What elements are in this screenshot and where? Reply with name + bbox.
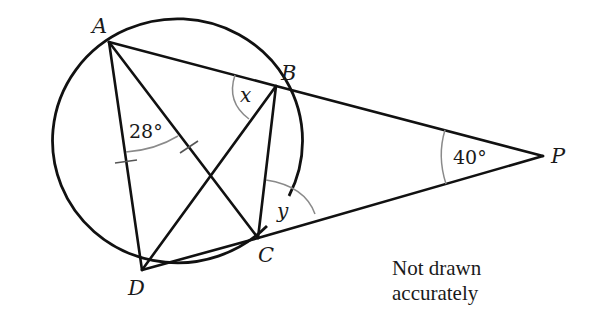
- angle-label-BCP: y: [276, 199, 289, 223]
- point-label-C: C: [258, 243, 274, 267]
- note-line-1: Not drawn: [392, 256, 482, 280]
- circle-theorem-diagram: A B C D P 28° x 40° y Not drawn accurate…: [0, 0, 598, 310]
- angle-arc-BPC: [441, 130, 446, 184]
- line-DC: [142, 238, 258, 270]
- note-line-2: accurately: [392, 281, 479, 305]
- circle: [53, 19, 303, 263]
- line-BP: [276, 86, 543, 156]
- point-label-P: P: [550, 144, 566, 168]
- angle-label-BPC: 40°: [453, 146, 487, 168]
- line-AD: [109, 42, 142, 270]
- angle-label-DAC: 28°: [129, 120, 163, 142]
- line-AB: [109, 42, 276, 86]
- point-label-A: A: [90, 14, 107, 38]
- point-label-B: B: [280, 61, 296, 85]
- point-label-D: D: [127, 276, 145, 300]
- tick-mark-AC: [180, 141, 198, 153]
- angle-label-ABD: x: [240, 83, 251, 107]
- angle-arc-BCP: [266, 180, 315, 214]
